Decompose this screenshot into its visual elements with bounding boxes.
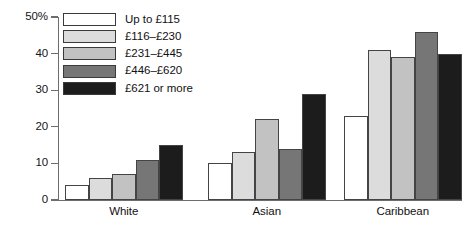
bar-group [344, 17, 462, 200]
bar-group [65, 17, 183, 200]
bar [255, 119, 279, 200]
bar [279, 149, 303, 200]
bar [438, 54, 462, 200]
bar [368, 50, 392, 200]
bar [391, 57, 415, 200]
bar-chart: 01020304050% Up to £115£116–£230£231–£44… [0, 0, 471, 233]
y-axis-tick [51, 53, 58, 54]
bar [65, 185, 89, 200]
x-axis-line [58, 200, 462, 201]
x-axis-category-label: White [109, 206, 138, 218]
y-axis-tick [51, 126, 58, 127]
plot-area [59, 17, 461, 200]
bar [159, 145, 183, 200]
bar [302, 94, 326, 200]
y-axis-tick [51, 16, 58, 17]
x-axis-category-label: Caribbean [376, 206, 429, 218]
bar [136, 160, 160, 200]
bar [344, 116, 368, 200]
y-axis-tick-label: 50% [4, 11, 48, 23]
bar [208, 163, 232, 200]
bar-group [208, 17, 326, 200]
y-axis-tick-label: 40 [4, 48, 48, 60]
bar [415, 32, 439, 200]
y-axis-tick [51, 199, 58, 200]
y-axis-tick-label: 20 [4, 121, 48, 133]
y-axis-tick-label: 0 [4, 194, 48, 206]
y-axis-tick [51, 163, 58, 164]
bar [112, 174, 136, 200]
y-axis-tick-label: 30 [4, 84, 48, 96]
bar [232, 152, 256, 200]
bar [89, 178, 113, 200]
x-axis-category-label: Asian [252, 206, 281, 218]
y-axis-tick-label: 10 [4, 158, 48, 170]
y-axis-tick [51, 90, 58, 91]
